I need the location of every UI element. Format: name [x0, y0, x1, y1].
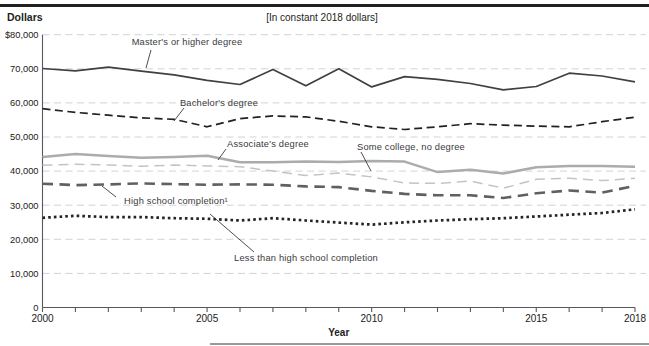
series-line-associates	[43, 154, 636, 173]
y-tick-label: $80,000	[5, 30, 39, 40]
y-tick-label: 20,000	[10, 235, 38, 245]
earnings-by-education-chart-figure: Dollars [In constant 2018 dollars] $80,0…	[0, 0, 649, 346]
annotation-label: Less than high school completion	[234, 253, 378, 263]
annotation-some-college: Some college, no degree	[357, 142, 465, 171]
annotation-leader-line	[174, 108, 184, 121]
x-tick-labels: 20002005201020152018	[31, 313, 646, 324]
x-axis-title: Year	[328, 327, 349, 338]
bottom-divider-rule	[210, 343, 649, 345]
annotation-associates: Associate's degree	[218, 139, 309, 160]
annotation-label: Some college, no degree	[357, 142, 465, 152]
annotation-label: Bachelor's degree	[180, 98, 258, 108]
annotation-leader-line	[146, 50, 151, 68]
annotation-label: Associate's degree	[227, 139, 309, 149]
series-line-masters	[43, 67, 636, 90]
annotation-masters: Master's or higher degree	[132, 37, 243, 68]
annotation-label: High school completion¹	[124, 196, 228, 206]
line-chart: $80,00070,00060,00050,00040,00030,00020,…	[0, 0, 649, 346]
x-tick-label: 2010	[361, 313, 384, 324]
annotation-high-school: High school completion¹	[102, 186, 228, 206]
x-tick-label: 2005	[196, 313, 219, 324]
y-tick-labels: $80,00070,00060,00050,00040,00030,00020,…	[5, 30, 39, 313]
y-tick-label: 0	[33, 303, 38, 313]
series-annotations: Master's or higher degreeBachelor's degr…	[102, 37, 465, 263]
annotation-leader-line	[102, 186, 116, 197]
annotation-less-than-hs: Less than high school completion	[210, 214, 378, 263]
annotation-label: Master's or higher degree	[132, 37, 243, 47]
x-tick-label: 2018	[624, 313, 647, 324]
y-tick-label: 30,000	[10, 201, 38, 211]
series-line-less-than-hs	[43, 209, 636, 224]
y-tick-label: 70,000	[10, 64, 38, 74]
x-tick-label: 2015	[525, 313, 548, 324]
y-tick-label: 50,000	[10, 132, 38, 142]
x-tick-label: 2000	[31, 313, 54, 324]
y-tick-label: 40,000	[10, 166, 38, 176]
y-tick-label: 60,000	[10, 98, 38, 108]
y-tick-label: 10,000	[10, 269, 38, 279]
series-line-bachelors	[43, 109, 636, 130]
